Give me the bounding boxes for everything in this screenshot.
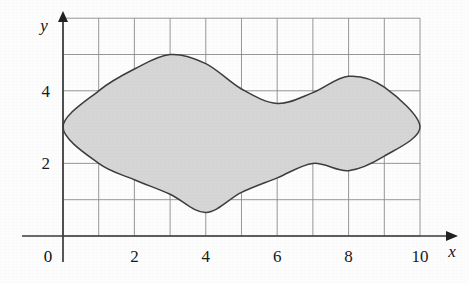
y-tick-label: 4 [42, 82, 51, 101]
figure-canvas: 24681024 x y 0 [0, 0, 469, 283]
x-axis-label: x [447, 242, 456, 261]
x-tick-label: 2 [130, 247, 139, 266]
x-tick-label: 8 [344, 247, 353, 266]
x-axis-arrow-icon [446, 231, 458, 241]
y-axis-arrow-icon [58, 11, 68, 22]
y-tick-label: 2 [42, 154, 51, 173]
x-tick-label: 4 [202, 247, 211, 266]
x-tick-label: 6 [273, 247, 282, 266]
y-axis-label: y [38, 16, 48, 35]
origin-label: 0 [44, 247, 53, 266]
x-tick-label: 10 [412, 247, 429, 266]
blob-region-plot: 24681024 x y 0 [0, 0, 469, 283]
